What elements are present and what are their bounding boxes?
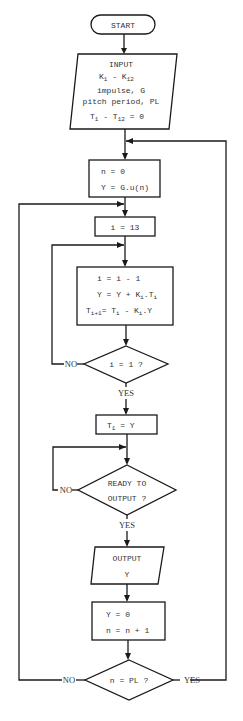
arrow-down-icon — [125, 653, 131, 660]
reset-n: n = n + 1 — [106, 626, 149, 635]
input-impulse: impulse, G — [97, 86, 145, 95]
arrow-down-icon — [124, 540, 130, 547]
input-block: INPUT K1 - K12 impulse, G pitch period, … — [70, 54, 177, 129]
decision-ready-line2: OUTPUT ? — [108, 494, 147, 503]
arrow-down-icon — [124, 595, 130, 602]
arrow-right-icon — [119, 444, 126, 450]
decision-ready-line1: READY TO — [108, 479, 147, 488]
flowchart: START INPUT K1 - K12 impulse, G pitch pe… — [0, 0, 243, 721]
i-init-box: i = 13 — [95, 217, 155, 236]
output-value: Y — [125, 570, 130, 579]
start-terminator: START — [91, 15, 155, 34]
init-n: n = 0 — [101, 167, 125, 176]
input-title: INPUT — [109, 60, 133, 69]
arrow-right-icon — [117, 201, 124, 207]
decision-ready-no: NO — [60, 485, 72, 495]
decision-pl-label: n = PL ? — [110, 676, 149, 685]
t1-box: T1 = Y — [96, 415, 157, 434]
arrow-left-icon — [126, 138, 133, 144]
decision-ready-yes: YES — [119, 520, 135, 530]
init-box: n = 0 Y = G.u(n) — [89, 160, 160, 197]
lattice-line1: i = i - 1 — [97, 274, 140, 283]
decision-pl: n = PL ? NO YES — [63, 660, 200, 700]
i-init-label: i = 13 — [111, 223, 140, 232]
start-label: START — [111, 21, 135, 30]
input-pitch: pitch period, PL — [83, 97, 160, 106]
output-block: OUTPUT Y — [91, 547, 164, 584]
output-title: OUTPUT — [113, 554, 142, 563]
decision-i-label: i = 1 ? — [109, 360, 143, 369]
arrow-down-icon — [124, 458, 130, 465]
init-y: Y = G.u(n) — [101, 183, 149, 192]
decision-i: i = 1 ? NO YES — [65, 346, 168, 398]
arrow-down-icon — [123, 339, 129, 346]
decision-ready: READY TO OUTPUT ? NO YES — [60, 465, 176, 530]
decision-i-no: NO — [65, 359, 77, 369]
arrow-right-icon — [117, 242, 124, 248]
reset-box: Y = 0 n = n + 1 — [92, 602, 165, 640]
decision-i-yes: YES — [118, 388, 134, 398]
decision-pl-yes: YES — [184, 675, 200, 685]
reset-y: Y = 0 — [106, 610, 130, 619]
arrow-down-icon — [122, 260, 128, 267]
arrow-down-icon — [122, 210, 128, 217]
arrow-down-icon — [123, 408, 129, 415]
lattice-box: i = i - 1 Y = Y + Ki.Ti Ti+1= Ti - Ki.Y — [77, 267, 173, 325]
arrow-down-icon — [121, 48, 127, 54]
arrow-down-icon — [122, 153, 128, 160]
decision-pl-no: NO — [63, 675, 75, 685]
